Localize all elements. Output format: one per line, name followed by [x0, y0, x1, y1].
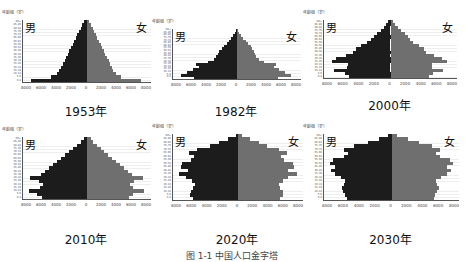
male-bar: [218, 53, 237, 56]
x-tick-label: 6000: [186, 203, 196, 208]
female-bar: [391, 20, 394, 23]
x-tick-label: 2000: [246, 82, 256, 87]
female-bar: [237, 50, 254, 53]
male-bar: [189, 151, 238, 155]
y-axis-title: 年龄组（岁）: [152, 123, 176, 129]
female-bar: [391, 32, 405, 35]
male-bar: [66, 56, 87, 59]
male-bar: [356, 47, 391, 50]
female-bar: [392, 151, 437, 155]
x-tick-label: 8000: [171, 82, 181, 87]
female-bar: [391, 69, 443, 72]
plot-area: [22, 20, 151, 83]
x-tick-label: 2000: [96, 85, 106, 90]
female-bar: [391, 54, 434, 57]
y-axis-ticks: 90+85-8980-8475-7970-7465-6960-6455-5950…: [311, 20, 322, 78]
female-bar: [238, 137, 250, 141]
female-bar: [87, 186, 133, 189]
female-bar: [238, 179, 283, 183]
female-bar: [237, 76, 278, 79]
plot-area: [22, 137, 151, 200]
x-tick-label: 4000: [51, 85, 61, 90]
male-bar: [377, 32, 390, 35]
male-bar: [342, 186, 392, 190]
female-bar: [237, 61, 264, 64]
male-bar: [374, 35, 391, 38]
male-bar: [196, 63, 237, 66]
male-bar: [53, 163, 87, 166]
female-bar: [392, 155, 440, 159]
x-tick-label: 2000: [400, 81, 410, 86]
male-bar: [71, 46, 87, 49]
male-bar: [334, 69, 391, 72]
female-bar: [87, 66, 112, 69]
female-bar: [391, 23, 396, 26]
female-bar: [238, 134, 242, 138]
figure-caption: 图 1-1 中国人口金字塔: [186, 249, 278, 262]
x-tick-label: 8000: [322, 81, 332, 86]
pyramid-panel-1982年: 年龄组（岁）90+85-8980-8475-7970-7465-6960-645…: [150, 16, 300, 134]
female-bar: [87, 140, 93, 143]
y-axis-title: 年龄组（岁）: [2, 9, 26, 15]
x-tick-label: 4000: [262, 203, 272, 208]
female-bar: [238, 183, 279, 187]
male-bar: [61, 66, 87, 69]
plot-area: [172, 134, 303, 201]
female-bar: [238, 186, 280, 190]
male-bar: [31, 79, 87, 82]
female-bar: [87, 160, 116, 163]
y-axis-ticks: 90+85-8980-8475-7970-7465-6960-6455-5950…: [160, 29, 171, 79]
female-bar: [237, 66, 274, 69]
female-bar: [392, 193, 436, 197]
male-bar: [49, 166, 87, 169]
x-tick-label: 4000: [51, 202, 61, 207]
male-bar: [345, 72, 391, 75]
male-bar: [219, 141, 238, 145]
x-tick-label: 8000: [21, 85, 31, 90]
male-bar: [68, 53, 87, 56]
female-bar: [87, 163, 120, 166]
female-bar: [391, 75, 429, 78]
male-bar: [335, 172, 392, 176]
chart-title: 2020年: [216, 230, 259, 247]
x-tick-label: 4000: [201, 203, 211, 208]
male-bar: [57, 160, 87, 163]
female-bar: [87, 183, 130, 186]
x-tick-label: 6000: [126, 202, 136, 207]
male-bar: [199, 66, 237, 69]
male-bar: [191, 158, 238, 162]
x-tick-label: 2000: [216, 82, 226, 87]
female-bar: [238, 151, 287, 155]
x-tick-label: 2000: [401, 203, 411, 208]
male-bar: [187, 71, 237, 74]
female-bar: [391, 35, 408, 38]
female-bar: [87, 79, 141, 82]
male-bar: [348, 63, 390, 66]
male-label: 男: [326, 19, 337, 35]
female-bar: [237, 42, 248, 45]
male-bar: [344, 183, 391, 187]
female-bar: [391, 47, 424, 50]
male-bar: [59, 69, 87, 72]
female-bar: [392, 144, 433, 148]
y-axis-ticks: 90+85-8980-8475-7970-7465-6960-6455-5950…: [160, 134, 171, 200]
x-tick-label: 8000: [171, 203, 181, 208]
female-bar: [392, 190, 438, 194]
female-bar: [237, 63, 276, 66]
female-label: 女: [288, 133, 299, 149]
male-bar: [57, 72, 87, 75]
male-bar: [219, 50, 237, 53]
male-bar: [347, 197, 392, 201]
x-tick-label: 0: [389, 203, 392, 208]
x-tick-label: 2000: [247, 203, 257, 208]
male-bar: [224, 45, 237, 48]
male-bar: [188, 169, 238, 173]
male-bar: [190, 193, 238, 197]
pyramid-panel-1953年: 年龄组（岁）90+85-8980-8475-7970-7465-6960-645…: [0, 2, 150, 120]
male-bar: [336, 57, 390, 60]
male-label: 男: [25, 19, 36, 35]
female-bar: [87, 56, 107, 59]
female-bar: [237, 40, 246, 43]
male-bar: [41, 173, 87, 176]
female-bar: [87, 33, 96, 36]
